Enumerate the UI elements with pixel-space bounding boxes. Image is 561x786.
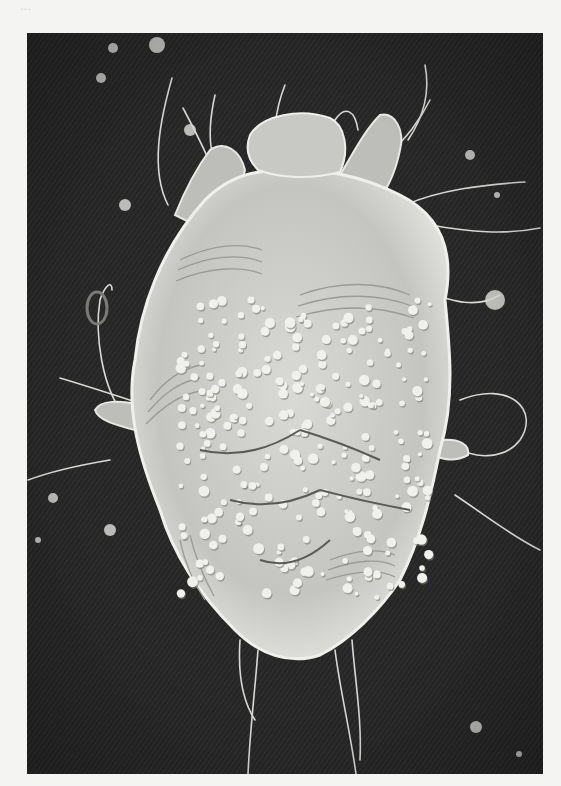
bleed-through-text: ...: [20, 1, 540, 13]
vignette: [27, 33, 543, 774]
sem-micrograph: [27, 33, 543, 774]
mite-illustration: [27, 33, 543, 774]
